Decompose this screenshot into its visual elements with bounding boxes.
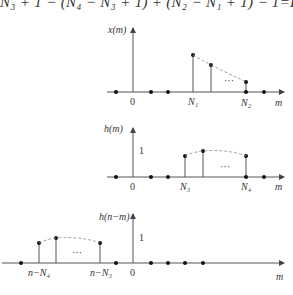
x-axis-label: m (276, 271, 283, 282)
origin-label: 0 (130, 96, 135, 107)
tick-label-n4: N₄ (240, 181, 252, 192)
origin-label: 0 (130, 267, 135, 278)
x-axis-label: m (275, 181, 282, 192)
plot-h-n-minus-m: h(n−m) 1 ··· 0 n−N₄ n−N₃ m (2, 211, 284, 282)
ellipsis: ··· (220, 161, 230, 172)
y-axis-label: h(m) (104, 123, 124, 135)
convolution-diagram: x(m) ··· 0 N₁ N₂ m h(m) 1 (0, 0, 293, 295)
y-axis-label: h(n−m) (99, 211, 130, 223)
tick-label-n1: N₁ (187, 96, 198, 107)
plot-x-m: x(m) ··· 0 N₁ N₂ m (107, 24, 284, 108)
x-axis-label: m (275, 97, 282, 108)
tick-label-n3: N₃ (179, 181, 191, 192)
ellipsis: ··· (224, 75, 234, 86)
y-axis-label: x(m) (107, 24, 127, 36)
plot-h-m: h(m) 1 ··· 0 N₃ N₄ m (104, 123, 284, 192)
unit-label: 1 (139, 232, 144, 243)
tick-label-n2: N₂ (240, 97, 252, 108)
tick-label-n-minus-n3: n−N₃ (90, 267, 112, 278)
origin-label: 0 (130, 181, 135, 192)
tick-label-n-minus-n4: n−N₄ (28, 267, 50, 278)
unit-label: 1 (139, 145, 144, 156)
ellipsis: ··· (72, 247, 82, 258)
